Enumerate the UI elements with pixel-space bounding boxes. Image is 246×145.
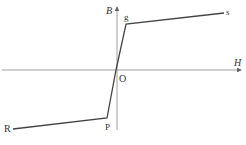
point-p-label: P [105,122,110,132]
point-s-label: s [226,7,230,17]
bh-curve-diagram: B H O g s P R [0,0,246,145]
b-axis-label: B [106,5,112,16]
point-r-label: R [4,123,11,134]
origin-label: O [119,73,126,84]
point-g-label: g [124,12,129,22]
magnetization-curve [13,13,224,129]
h-axis-label: H [233,57,242,68]
